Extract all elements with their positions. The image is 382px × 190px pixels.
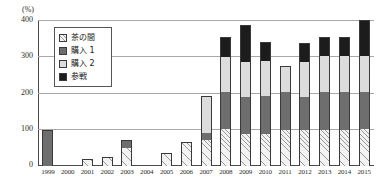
legend-item-chanoma[interactable]: 茶の間 bbox=[59, 31, 107, 44]
bar-segment-2010-s2 bbox=[260, 61, 271, 96]
stacked-bar-chart: (%) 0100200300400 1999200020012002200320… bbox=[0, 0, 382, 190]
legend-item-kounyu-2[interactable]: 購入 2 bbox=[59, 57, 107, 70]
legend-item-kounyu-1[interactable]: 購入 1 bbox=[59, 44, 107, 57]
bar-segment-2015-s3 bbox=[359, 20, 370, 56]
bar-segment-2014-s1 bbox=[339, 92, 350, 130]
bar-segment-2003-s1 bbox=[121, 140, 132, 148]
x-tick-label-2009: 2009 bbox=[236, 168, 256, 176]
bar-group-2010 bbox=[255, 21, 275, 166]
bar-group-2013 bbox=[315, 21, 335, 166]
bar-segment-2013-s0 bbox=[319, 130, 330, 166]
legend-swatch-light-icon bbox=[59, 60, 67, 68]
bar-segment-2005-s0 bbox=[161, 153, 172, 166]
x-tick-label-2010: 2010 bbox=[255, 168, 275, 176]
bar-segment-2015-s0 bbox=[359, 129, 370, 166]
bar-segment-2013-s3 bbox=[319, 37, 330, 57]
bar-segment-2010-s3 bbox=[260, 42, 271, 61]
bar-segment-2012-s1 bbox=[299, 97, 310, 130]
bar-group-2003 bbox=[117, 21, 137, 166]
bar-segment-2008-s0 bbox=[220, 129, 231, 166]
bar-segment-2012-s2 bbox=[299, 62, 310, 97]
x-tick-label-2003: 2003 bbox=[117, 168, 137, 176]
x-tick-label-2006: 2006 bbox=[176, 168, 196, 176]
bar-stack-2010[interactable] bbox=[260, 42, 271, 166]
legend-swatch-black-icon bbox=[59, 73, 67, 81]
bar-segment-2007-s2 bbox=[201, 96, 212, 133]
bar-group-2015 bbox=[354, 21, 374, 166]
bar-stack-2002[interactable] bbox=[102, 157, 113, 166]
y-tick-label-400: 400 bbox=[21, 16, 33, 24]
bar-segment-2012-s0 bbox=[299, 130, 310, 166]
legend-swatch-hatch-icon bbox=[59, 34, 67, 42]
bar-stack-2003[interactable] bbox=[121, 140, 132, 166]
bar-stack-2014[interactable] bbox=[339, 37, 350, 166]
bar-stack-1999[interactable] bbox=[42, 130, 53, 166]
bar-segment-2011-s1 bbox=[280, 92, 291, 129]
bar-group-2014 bbox=[334, 21, 354, 166]
x-tick-label-2014: 2014 bbox=[334, 168, 354, 176]
bar-group-2007 bbox=[196, 21, 216, 166]
y-tick-label-200: 200 bbox=[21, 89, 33, 97]
bar-segment-2007-s0 bbox=[201, 140, 212, 166]
bar-segment-2011-s2 bbox=[280, 66, 291, 92]
bar-stack-2012[interactable] bbox=[299, 43, 310, 166]
bar-segment-2002-s0 bbox=[102, 157, 113, 166]
bar-group-2011 bbox=[275, 21, 295, 166]
bar-segment-2009-s3 bbox=[240, 25, 251, 62]
bar-group-2012 bbox=[295, 21, 315, 166]
x-tick-label-2000: 2000 bbox=[58, 168, 78, 176]
legend-label-chanoma: 茶の間 bbox=[71, 34, 95, 42]
bar-stack-2008[interactable] bbox=[220, 37, 231, 166]
y-tick-label-100: 100 bbox=[21, 125, 33, 133]
legend-label-sansen: 参戦 bbox=[71, 73, 87, 81]
bar-segment-2015-s1 bbox=[359, 92, 370, 128]
bar-group-2006 bbox=[176, 21, 196, 166]
x-tick-label-2005: 2005 bbox=[157, 168, 177, 176]
x-tick-label-1999: 1999 bbox=[38, 168, 58, 176]
bar-group-2004 bbox=[137, 21, 157, 166]
bar-segment-2008-s1 bbox=[220, 92, 231, 128]
chart-legend: 茶の間 購入 1 購入 2 参戦 bbox=[54, 27, 112, 87]
legend-label-kounyu-1: 購入 1 bbox=[71, 47, 95, 55]
bar-stack-2006[interactable] bbox=[181, 142, 192, 166]
x-axis-tick-labels: 1999200020012002200320042005200620072008… bbox=[38, 168, 374, 176]
bar-stack-2015[interactable] bbox=[359, 20, 370, 166]
x-tick-label-2012: 2012 bbox=[295, 168, 315, 176]
bar-segment-2014-s3 bbox=[339, 37, 350, 57]
bar-segment-2008-s2 bbox=[220, 57, 231, 92]
bar-stack-2007[interactable] bbox=[201, 96, 212, 166]
bar-segment-2013-s2 bbox=[319, 56, 330, 92]
x-tick-label-2001: 2001 bbox=[78, 168, 98, 176]
bar-segment-2010-s0 bbox=[260, 134, 271, 166]
bar-segment-2006-s0 bbox=[181, 142, 192, 166]
bar-group-2009 bbox=[236, 21, 256, 166]
x-tick-label-2004: 2004 bbox=[137, 168, 157, 176]
bar-segment-2012-s3 bbox=[299, 43, 310, 62]
bar-stack-2011[interactable] bbox=[280, 66, 291, 166]
bar-segment-2001-s0 bbox=[82, 159, 93, 166]
legend-item-sansen[interactable]: 参戦 bbox=[59, 70, 107, 83]
bar-stack-2013[interactable] bbox=[319, 37, 330, 166]
bar-segment-2014-s0 bbox=[339, 130, 350, 166]
y-tick-label-0: 0 bbox=[29, 161, 33, 169]
bar-segment-2009-s1 bbox=[240, 97, 251, 134]
bar-stack-2005[interactable] bbox=[161, 153, 172, 166]
bar-segment-2011-s0 bbox=[280, 130, 291, 166]
bar-segment-2010-s1 bbox=[260, 96, 271, 134]
bar-stack-2001[interactable] bbox=[82, 159, 93, 166]
x-tick-label-2008: 2008 bbox=[216, 168, 236, 176]
y-axis-unit-label: (%) bbox=[22, 5, 34, 14]
x-tick-label-2007: 2007 bbox=[196, 168, 216, 176]
legend-label-kounyu-2: 購入 2 bbox=[71, 60, 95, 68]
x-tick-label-2015: 2015 bbox=[354, 168, 374, 176]
bar-stack-2009[interactable] bbox=[240, 25, 251, 166]
bar-group-2005 bbox=[157, 21, 177, 166]
bar-segment-2015-s2 bbox=[359, 56, 370, 92]
bar-segment-2013-s1 bbox=[319, 92, 330, 130]
x-tick-label-2013: 2013 bbox=[315, 168, 335, 176]
x-tick-label-2011: 2011 bbox=[275, 168, 295, 176]
bar-group-2008 bbox=[216, 21, 236, 166]
y-tick-label-300: 300 bbox=[21, 52, 33, 60]
bar-segment-2009-s2 bbox=[240, 62, 251, 97]
x-tick-label-2002: 2002 bbox=[97, 168, 117, 176]
